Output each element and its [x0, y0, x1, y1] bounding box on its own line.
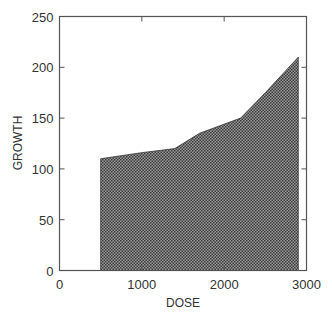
x-tick-label: 2000	[210, 277, 239, 292]
y-tick-label: 100	[32, 162, 54, 177]
y-tick-label: 50	[39, 213, 53, 228]
area-fill	[101, 57, 299, 270]
x-tick-label: 3000	[292, 277, 321, 292]
x-axis-title: DOSE	[166, 296, 200, 310]
area-polygon	[101, 57, 299, 270]
x-tick-label: 1000	[127, 277, 156, 292]
y-tick-label: 0	[46, 264, 53, 279]
y-tick-label: 200	[32, 60, 54, 75]
y-axis-title: GROWTH	[11, 116, 25, 171]
y-tick-label: 150	[32, 111, 54, 126]
x-tick-label: 0	[56, 277, 63, 292]
y-tick-label: 250	[32, 10, 54, 25]
area-chart: 050100150200250 0100020003000 DOSE GROWT…	[0, 0, 332, 317]
